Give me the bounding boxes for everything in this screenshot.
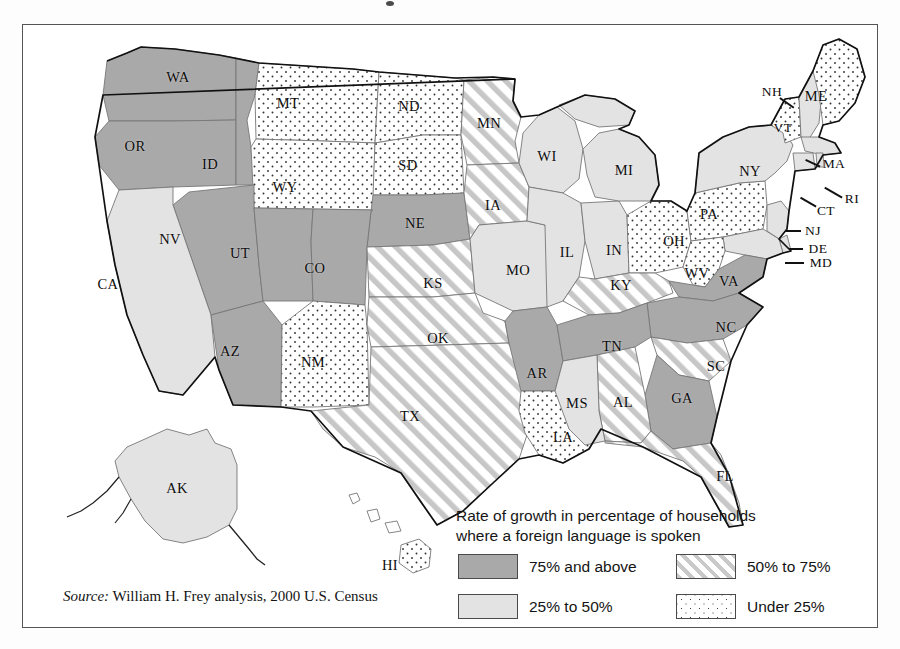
state-label-VT: VT bbox=[774, 120, 793, 136]
source-note: Source: William H. Frey analysis, 2000 U… bbox=[63, 588, 378, 605]
state-label-TX: TX bbox=[400, 408, 420, 425]
state-SD bbox=[373, 135, 464, 195]
state-label-MA: MA bbox=[823, 156, 846, 172]
state-KS bbox=[367, 239, 475, 297]
state-label-AL: AL bbox=[613, 394, 633, 411]
map-legend: Rate of growth in percentage of househol… bbox=[456, 506, 856, 616]
source-text: William H. Frey analysis, 2000 U.S. Cens… bbox=[113, 588, 378, 604]
map-figure: WAORIDMTNDSDWYNVUTCONECAAZNMKSOKTXMNIAWI… bbox=[0, 0, 900, 649]
state-label-SC: SC bbox=[707, 358, 726, 375]
state-label-KS: KS bbox=[423, 275, 442, 292]
state-CO bbox=[311, 209, 373, 305]
state-label-CO: CO bbox=[305, 260, 326, 277]
state-label-AK: AK bbox=[166, 480, 188, 497]
state-label-NV: NV bbox=[159, 231, 181, 248]
state-AK-panhandle bbox=[229, 525, 265, 565]
state-label-ND: ND bbox=[398, 98, 420, 115]
state-label-MD: MD bbox=[810, 255, 833, 271]
legend-entry-above75: 75% and above bbox=[458, 554, 637, 579]
state-label-MI: MI bbox=[615, 162, 634, 179]
legend-label-above75: 75% and above bbox=[529, 558, 637, 576]
state-label-NC: NC bbox=[716, 319, 737, 336]
legend-label-25to50: 25% to 50% bbox=[529, 598, 613, 616]
legend-swatch-above75 bbox=[458, 554, 518, 579]
state-label-IL: IL bbox=[560, 244, 575, 261]
source-prefix: Source: bbox=[63, 588, 109, 604]
state-label-OH: OH bbox=[663, 233, 685, 250]
state-label-TN: TN bbox=[602, 338, 622, 355]
state-label-NM: NM bbox=[301, 354, 325, 371]
state-label-LA: LA bbox=[553, 429, 573, 446]
scan-artifact-speck bbox=[386, 1, 394, 6]
map-frame-border: WAORIDMTNDSDWYNVUTCONECAAZNMKSOKTXMNIAWI… bbox=[22, 24, 878, 628]
state-label-CA: CA bbox=[98, 276, 119, 293]
state-HI-bigisland bbox=[399, 539, 431, 573]
state-label-MS: MS bbox=[566, 395, 588, 412]
state-label-KY: KY bbox=[610, 277, 632, 294]
leader-line-DE bbox=[789, 248, 803, 250]
legend-title: Rate of growth in percentage of househol… bbox=[456, 506, 852, 546]
state-label-OR: OR bbox=[125, 138, 146, 155]
state-label-HI: HI bbox=[382, 557, 398, 574]
state-label-VA: VA bbox=[719, 273, 739, 290]
state-label-AZ: AZ bbox=[220, 343, 240, 360]
state-label-SD: SD bbox=[398, 157, 417, 174]
state-WY bbox=[251, 139, 375, 210]
legend-swatch-under25 bbox=[676, 594, 736, 619]
state-MT bbox=[255, 63, 379, 143]
legend-label-under25: Under 25% bbox=[747, 598, 825, 616]
state-HI-maui bbox=[385, 521, 401, 533]
state-label-MO: MO bbox=[506, 262, 530, 279]
state-label-PA: PA bbox=[700, 206, 718, 223]
state-label-WI: WI bbox=[537, 148, 556, 165]
state-label-NY: NY bbox=[739, 163, 761, 180]
state-label-NJ: NJ bbox=[805, 223, 821, 239]
state-label-IN: IN bbox=[606, 242, 622, 259]
legend-entry-50to75: 50% to 75% bbox=[676, 554, 831, 579]
state-label-MT: MT bbox=[277, 95, 300, 112]
state-label-AR: AR bbox=[527, 365, 548, 382]
state-label-FL: FL bbox=[716, 468, 734, 485]
legend-swatch-25to50 bbox=[458, 594, 518, 619]
legend-label-50to75: 50% to 75% bbox=[747, 558, 831, 576]
state-label-IA: IA bbox=[485, 197, 501, 214]
state-label-ID: ID bbox=[202, 156, 218, 173]
state-AK-aleutians bbox=[67, 477, 131, 523]
leader-line-MD bbox=[785, 262, 804, 264]
state-label-MN: MN bbox=[477, 115, 501, 132]
state-label-NE: NE bbox=[405, 215, 425, 232]
leader-line-NJ bbox=[786, 230, 801, 232]
state-label-ME: ME bbox=[805, 88, 828, 105]
state-HI-kauai bbox=[349, 493, 360, 504]
state-UT bbox=[254, 208, 313, 301]
state-HI-oahu bbox=[367, 509, 380, 522]
state-label-CT: CT bbox=[817, 203, 835, 219]
state-label-WY: WY bbox=[273, 179, 298, 196]
state-IN bbox=[581, 201, 629, 279]
state-MA bbox=[801, 137, 841, 155]
state-label-RI: RI bbox=[845, 191, 859, 207]
legend-entry-under25: Under 25% bbox=[676, 594, 825, 619]
state-label-OK: OK bbox=[427, 330, 449, 347]
state-NC bbox=[647, 293, 763, 343]
legend-entry-25to50: 25% to 50% bbox=[458, 594, 613, 619]
legend-swatch-50to75 bbox=[676, 554, 736, 579]
legend-title-line1: Rate of growth in percentage of househol… bbox=[456, 506, 852, 526]
state-label-GA: GA bbox=[671, 390, 693, 407]
state-label-WA: WA bbox=[166, 69, 189, 86]
state-label-NH: NH bbox=[762, 84, 782, 100]
legend-title-line2: where a foreign language is spoken bbox=[456, 526, 852, 546]
state-label-UT: UT bbox=[230, 245, 250, 262]
state-label-WV: WV bbox=[685, 265, 710, 282]
